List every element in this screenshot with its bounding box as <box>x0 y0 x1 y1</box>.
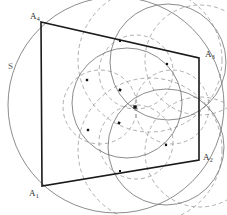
dashed-circle-large-bottom <box>78 78 222 215</box>
vertex-label-a2-sub: 2 <box>210 157 213 163</box>
point-inner-lower <box>117 121 120 124</box>
point-inner-upper <box>118 88 121 91</box>
vertex-label-a1: A1 <box>29 189 39 198</box>
dashed-circle-far-right-upper <box>145 5 227 115</box>
vertex-label-a4: A4 <box>30 12 40 21</box>
vertex-label-a2-base: A <box>203 152 210 162</box>
quadrilateral-outline <box>41 22 199 186</box>
point-top-edge <box>119 40 121 42</box>
point-center <box>133 105 136 108</box>
curve-label-s: S <box>8 62 13 71</box>
point-lower-right <box>165 144 167 146</box>
vertex-label-a4-sub: 4 <box>37 16 40 22</box>
vertex-label-a2: A2 <box>203 153 213 162</box>
geometry-figure: A4 A3 A2 A1 S <box>0 0 227 215</box>
figure-canvas <box>0 0 227 215</box>
vertex-label-a3-base: A <box>205 49 212 59</box>
vertex-label-a1-base: A <box>29 188 36 198</box>
dashed-petal-top <box>99 35 173 109</box>
vertex-label-a1-sub: 1 <box>36 193 39 199</box>
vertex-label-a4-base: A <box>30 11 37 21</box>
point-bottom-edge <box>119 170 121 172</box>
vertex-label-a3-sub: 3 <box>212 54 215 60</box>
point-upper-right <box>166 63 168 65</box>
curve-label-s-text: S <box>8 61 13 71</box>
point-upper-left <box>86 79 88 81</box>
quadrilateral <box>41 22 199 186</box>
vertex-label-a3: A3 <box>205 50 215 59</box>
point-lower-left <box>87 129 89 131</box>
